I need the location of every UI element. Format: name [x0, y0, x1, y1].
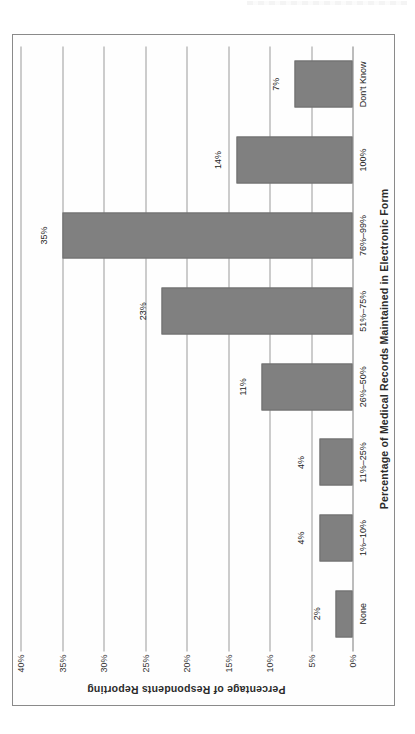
bar-slot: 7%: [20, 46, 352, 122]
bar-slot: 2%: [20, 575, 352, 651]
bar-slot: 4%: [20, 424, 352, 500]
y-tick-label: 10%: [264, 654, 274, 672]
bar-series: 2%4%4%11%23%35%14%7%: [20, 46, 352, 651]
bar: [319, 514, 352, 561]
y-tick-label: 25%: [140, 654, 150, 672]
bar: [161, 287, 352, 334]
plot-row: Percentage of Respondents Reporting 0%5%…: [20, 46, 352, 698]
bar-value-label: 11%: [237, 378, 249, 395]
x-category-label: None: [352, 575, 367, 651]
bar: [62, 212, 353, 259]
y-axis-tick-labels: 0%5%10%15%20%25%30%35%40%: [20, 651, 352, 681]
bar-value-label: 4%: [295, 455, 307, 468]
bar-slot: 4%: [20, 500, 352, 576]
y-tick-label: 15%: [223, 654, 233, 672]
x-category-label: 11%–25%: [352, 424, 367, 500]
bar-value-label: 2%: [311, 607, 323, 620]
chart-figure-frame: Percentage of Respondents Reporting 0%5%…: [12, 34, 395, 706]
bar-value-label: 4%: [295, 531, 307, 544]
bar-value-label: 35%: [38, 226, 50, 244]
bar: [319, 439, 352, 486]
x-category-label: 1%–10%: [352, 500, 367, 576]
y-tick-label: 35%: [57, 654, 67, 672]
x-axis-row: None1%–10%11%–25%26%–50%51%–75%76%–99%10…: [352, 46, 367, 698]
scan-header-artifact: [247, 1, 407, 5]
y-tick-label: 0%: [347, 654, 357, 667]
bar-slot: 14%: [20, 122, 352, 198]
y-tick-label: 20%: [181, 654, 191, 672]
y-tick-label: 30%: [98, 654, 108, 672]
y-tick-label: 40%: [15, 654, 25, 672]
x-axis-category-labels: None1%–10%11%–25%26%–50%51%–75%76%–99%10…: [352, 46, 367, 651]
x-category-label: 76%–99%: [352, 197, 367, 273]
bar-value-label: 23%: [137, 302, 149, 320]
bar-chart: Percentage of Respondents Reporting 0%5%…: [14, 36, 393, 704]
bar: [236, 136, 352, 183]
bar-slot: 11%: [20, 349, 352, 425]
x-category-label: 26%–50%: [352, 349, 367, 425]
bar-slot: 23%: [20, 273, 352, 349]
x-title-spacer: [367, 651, 389, 698]
bar-slot: 35%: [20, 197, 352, 273]
x-category-label: Don't Know: [352, 46, 367, 122]
bar: [294, 60, 352, 107]
x-axis-title: Percentage of Medical Records Maintained…: [367, 46, 389, 651]
x-axis-title-row: Percentage of Medical Records Maintained…: [367, 46, 389, 698]
x-category-label: 100%: [352, 122, 367, 198]
bar-value-label: 7%: [270, 77, 282, 90]
bar: [261, 363, 352, 410]
plot-area: 2%4%4%11%23%35%14%7%: [20, 46, 352, 651]
bar: [335, 590, 352, 637]
bar-value-label: 14%: [212, 150, 224, 168]
rotated-chart-container: Percentage of Respondents Reporting 0%5%…: [14, 36, 393, 704]
y-tick-label: 5%: [306, 654, 316, 667]
y-axis-title: Percentage of Respondents Reporting: [20, 681, 352, 698]
x-category-label: 51%–75%: [352, 273, 367, 349]
